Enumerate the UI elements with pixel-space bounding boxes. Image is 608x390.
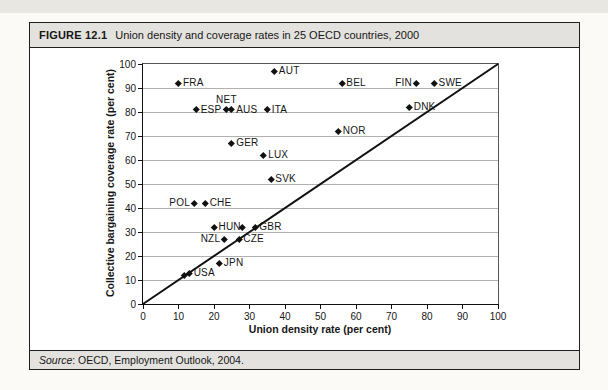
source-bar: Source : OECD, Employment Outlook, 2004. (30, 350, 579, 369)
source-text: : OECD, Employment Outlook, 2004. (72, 354, 244, 366)
x-tick-label-40: 40 (279, 311, 290, 322)
data-point-label-NZL: NZL (201, 233, 221, 245)
y-tick-label-40: 40 (102, 203, 136, 214)
data-point-label-GBR: GBR (259, 221, 281, 233)
data-point-label-FIN: FIN (395, 77, 412, 89)
x-tick-30 (249, 304, 250, 309)
x-tick-70 (391, 304, 392, 309)
x-tick-50 (320, 304, 321, 309)
data-point-label-LUX: LUX (268, 149, 288, 161)
x-tick-60 (356, 304, 357, 309)
x-tick-label-90: 90 (457, 311, 468, 322)
data-point-label-POL: POL (169, 197, 190, 209)
x-axis-label: Union density rate (per cent) (249, 323, 391, 335)
data-point-label-SWE: SWE (439, 77, 462, 89)
x-tick-label-0: 0 (140, 311, 146, 322)
y-tick-label-50: 50 (102, 179, 136, 190)
figure-title-bar: FIGURE 12.1 Union density and coverage r… (30, 23, 579, 48)
data-point-label-AUS: AUS (236, 104, 257, 116)
source-prefix: Source (39, 354, 72, 366)
x-tick-0 (143, 304, 144, 309)
x-tick-label-10: 10 (173, 311, 184, 322)
data-point-label-BEL: BEL (346, 77, 366, 89)
data-point-label-DNK: DNK (414, 101, 436, 113)
data-point-label-USA: USA (194, 267, 215, 279)
y-tick-label-100: 100 (102, 59, 136, 70)
data-point-label-HUN: HUN (219, 221, 241, 233)
figure-number-label: FIGURE 12.1 (39, 29, 107, 41)
x-tick-label-20: 20 (208, 311, 219, 322)
figure-title-text: Union density and coverage rates in 25 O… (115, 29, 419, 41)
x-tick-10 (178, 304, 179, 309)
figure-box: FIGURE 12.1 Union density and coverage r… (29, 22, 580, 370)
x-tick-label-100: 100 (490, 311, 507, 322)
x-tick-label-70: 70 (386, 311, 397, 322)
x-tick-80 (427, 304, 428, 309)
x-tick-40 (285, 304, 286, 309)
y-tick-label-30: 30 (102, 227, 136, 238)
y-tick-label-70: 70 (102, 131, 136, 142)
x-tick-90 (462, 304, 463, 309)
x-tick-label-30: 30 (244, 311, 255, 322)
data-point-label-NET: NET (216, 94, 237, 106)
y-tick-label-60: 60 (102, 155, 136, 166)
x-tick-20 (214, 304, 215, 309)
data-point-label-JPN: JPN (224, 257, 244, 269)
x-tick-label-50: 50 (315, 311, 326, 322)
data-point-label-AUT: AUT (279, 65, 300, 77)
data-point-label-FRA: FRA (183, 77, 204, 89)
y-tick-label-20: 20 (102, 251, 136, 262)
data-point-label-SVK: SVK (275, 173, 296, 185)
page: FIGURE 12.1 Union density and coverage r… (0, 0, 608, 390)
plot-area: 0102030405060708090100010203040506070809… (142, 63, 499, 305)
x-tick-100 (498, 304, 499, 309)
y-tick-label-10: 10 (102, 275, 136, 286)
y-tick-label-90: 90 (102, 83, 136, 94)
scan-texture-strip (0, 0, 608, 13)
x-tick-label-80: 80 (421, 311, 432, 322)
data-point-label-CHE: CHE (210, 197, 232, 209)
y-tick-label-80: 80 (102, 107, 136, 118)
data-point-label-GER: GER (236, 137, 258, 149)
data-point-label-NOR: NOR (343, 125, 366, 137)
y-tick-label-0: 0 (102, 299, 136, 310)
chart-region: Collective bargaining coverage rate (per… (30, 48, 579, 350)
data-point-label-ITA: ITA (272, 104, 287, 116)
data-point-label-CZE: CZE (243, 233, 264, 245)
x-tick-label-60: 60 (350, 311, 361, 322)
